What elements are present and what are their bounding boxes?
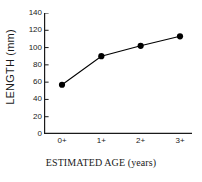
x-axis-tick-labels: 0+1+2+3+: [44, 136, 192, 148]
y-axis-tick-label: 40: [18, 95, 42, 103]
y-axis-tick-label: 80: [18, 61, 42, 69]
chart-canvas: [44, 13, 192, 134]
data-point-marker: [177, 33, 183, 39]
y-axis-title-text: LENGTH (mm): [4, 29, 16, 105]
x-axis-tick-label: 1+: [86, 136, 116, 146]
x-axis-title: ESTIMATED AGE (years): [0, 157, 202, 168]
y-axis-title: LENGTH (mm): [0, 0, 20, 134]
y-axis-tick-label: 100: [18, 44, 42, 52]
plot-area: [44, 13, 192, 134]
data-point-marker: [138, 43, 144, 49]
y-axis-tick-label: 20: [18, 113, 42, 121]
data-point-markers: [59, 33, 183, 88]
y-axis-tick-label: 120: [18, 26, 42, 34]
y-axis-tick-label: 140: [18, 9, 42, 17]
data-series-line: [62, 36, 180, 84]
y-axis-tick-labels: 020406080100120140: [18, 8, 42, 134]
data-point-marker: [98, 53, 104, 59]
x-axis-tick-label: 3+: [165, 136, 195, 146]
y-axis-tick-label: 60: [18, 78, 42, 86]
length-vs-age-line-chart: LENGTH (mm) 020406080100120140 0+1+2+3+ …: [0, 0, 202, 182]
x-axis-tick-label: 0+: [47, 136, 77, 146]
data-point-marker: [59, 82, 65, 88]
y-axis-tick-label: 0: [18, 130, 42, 138]
x-axis-tick-label: 2+: [126, 136, 156, 146]
